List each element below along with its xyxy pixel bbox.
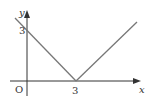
- x-axis-label: x: [139, 84, 145, 95]
- x-vertex-label: 3: [72, 85, 78, 96]
- graph-right-branch: [76, 22, 137, 81]
- y-intercept-label: 3: [19, 25, 25, 36]
- graph-canvas: y x O 3 3: [0, 0, 149, 103]
- origin-label: O: [15, 84, 23, 95]
- y-axis-arrow-icon: [24, 10, 30, 18]
- y-axis-label: y: [18, 7, 25, 18]
